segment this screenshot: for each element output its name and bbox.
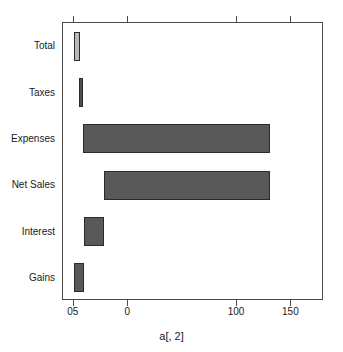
- plot-area: [62, 22, 323, 300]
- y-tick-label-expenses: Expenses: [11, 132, 55, 143]
- bar-total: [74, 32, 81, 61]
- y-tick-label-taxes: Taxes: [29, 86, 55, 97]
- bar-net-sales: [104, 171, 269, 200]
- x-tick-label-1: 0: [124, 306, 130, 318]
- bar-interest: [84, 217, 105, 246]
- x-tick-label-0: 05: [67, 306, 78, 318]
- bar-gains: [74, 263, 84, 292]
- y-tick-label-interest: Interest: [22, 225, 55, 236]
- y-tick-label-net-sales: Net Sales: [12, 179, 55, 190]
- chart-figure: TotalTaxesExpensesNet SalesInterestGains…: [0, 0, 343, 352]
- bar-expenses: [83, 124, 270, 153]
- y-tick-label-total: Total: [34, 40, 55, 51]
- x-tick-label-3: 150: [282, 306, 299, 318]
- x-tick-label-2: 100: [228, 306, 245, 318]
- bar-taxes: [79, 78, 82, 107]
- y-tick-label-gains: Gains: [29, 271, 55, 282]
- x-axis-title: a[, 2]: [0, 330, 343, 342]
